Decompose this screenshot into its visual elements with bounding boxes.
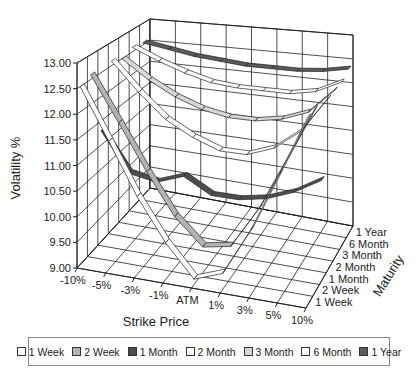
y-tick-label: 10.50 bbox=[43, 185, 71, 197]
depth-tick-label: 2 Week bbox=[322, 284, 360, 296]
legend-label: 2 Month bbox=[198, 346, 236, 358]
legend-item: 2 Week bbox=[72, 346, 119, 358]
depth-tick-label: 3 Month bbox=[342, 249, 382, 261]
y-tick-label: 10.00 bbox=[43, 211, 71, 223]
y-tick-label: 11.00 bbox=[44, 160, 71, 172]
y-axis-title: Volatility % bbox=[8, 136, 23, 199]
legend-item: 1 Year bbox=[359, 346, 401, 358]
x-tick-label: 5% bbox=[265, 309, 281, 321]
depth-tick-label: 1 Month bbox=[329, 273, 369, 285]
legend-label: 6 Month bbox=[313, 346, 351, 358]
y-tick-label: 9.00 bbox=[50, 262, 71, 274]
legend-item: 3 Month bbox=[244, 346, 294, 358]
legend-item: 6 Month bbox=[301, 346, 351, 358]
legend-label: 1 Year bbox=[371, 346, 401, 358]
legend-label: 2 Week bbox=[84, 346, 119, 358]
y-axis-ticks: 9.009.5010.0010.5011.0011.5012.0012.5013… bbox=[43, 57, 77, 274]
y-tick-label: 12.00 bbox=[43, 108, 71, 120]
legend-label: 1 Month bbox=[140, 346, 178, 358]
x-tick-label: ATM bbox=[176, 294, 198, 306]
legend-item: 1 Month bbox=[128, 346, 178, 358]
y-tick-label: 9.50 bbox=[50, 236, 71, 248]
x-tick-label: -10% bbox=[60, 274, 86, 286]
x-tick-label: -5% bbox=[92, 279, 112, 291]
legend-label: 1 Week bbox=[29, 346, 64, 358]
depth-tick-label: 1 Year bbox=[356, 226, 388, 238]
depth-tick-label: 1 Week bbox=[315, 296, 353, 308]
x-tick-label: 10% bbox=[291, 314, 313, 326]
legend-swatch-icon bbox=[128, 347, 137, 356]
x-tick-label: 3% bbox=[237, 304, 253, 316]
legend-swatch-icon bbox=[17, 347, 26, 356]
legend-swatch-icon bbox=[72, 347, 81, 356]
y-tick-label: 11.50 bbox=[44, 134, 71, 146]
legend-swatch-icon bbox=[301, 347, 310, 356]
depth-tick-label: 6 Month bbox=[349, 238, 389, 250]
x-axis-title: Strike Price bbox=[123, 314, 189, 329]
depth-tick-label: 2 Month bbox=[336, 261, 376, 273]
legend-swatch-icon bbox=[186, 347, 195, 356]
legend-item: 1 Week bbox=[17, 346, 64, 358]
legend-swatch-icon bbox=[359, 347, 368, 356]
legend-item: 2 Month bbox=[186, 346, 236, 358]
legend-label: 3 Month bbox=[256, 346, 294, 358]
x-tick-label: -1% bbox=[149, 289, 169, 301]
x-tick-label: 1% bbox=[208, 299, 224, 311]
y-tick-label: 13.00 bbox=[43, 57, 71, 69]
x-tick-label: -3% bbox=[120, 284, 140, 296]
chart-legend: 1 Week2 Week1 Month2 Month3 Month6 Month… bbox=[28, 337, 390, 366]
y-tick-label: 12.50 bbox=[43, 83, 71, 95]
volatility-surface-chart: 9.009.5010.0010.5011.0011.5012.0012.5013… bbox=[0, 0, 416, 336]
legend-swatch-icon bbox=[244, 347, 253, 356]
